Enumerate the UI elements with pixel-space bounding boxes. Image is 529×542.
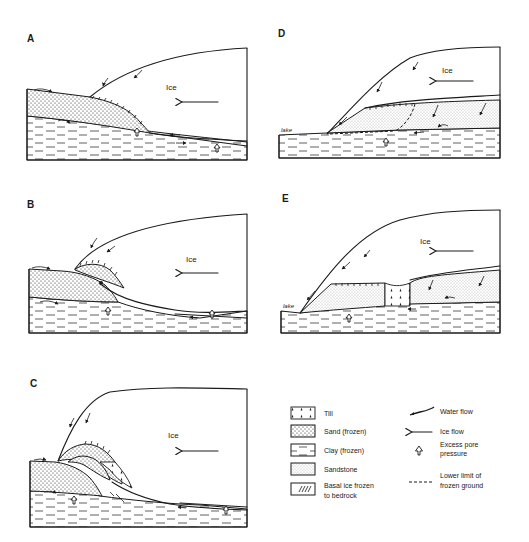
sand-swatch <box>291 425 315 437</box>
water-flow-arrow <box>70 418 74 427</box>
legend-item-excess-pore-pressure: Excess pore pressure <box>416 441 479 458</box>
water-flow-arrow <box>34 459 46 460</box>
legend-label: Ice flow <box>440 428 465 435</box>
panel-label-b: B <box>27 199 34 210</box>
sandstone-swatch <box>291 463 315 475</box>
clay-layer <box>279 128 500 158</box>
lake-label: lake <box>281 127 293 133</box>
basal-ice-swatch <box>291 483 315 495</box>
legend-item-till: Till <box>291 407 333 419</box>
panel-d: D lake Ice <box>278 28 500 158</box>
excess-pore-pressure-icon <box>416 446 423 455</box>
sandstone-layer-right <box>410 270 500 304</box>
till-swatch <box>291 407 315 419</box>
ice-label: Ice <box>186 255 197 264</box>
thrust-point <box>99 281 103 285</box>
legend-label: Lower limit of <box>440 472 481 479</box>
legend-label: frozen ground <box>440 482 483 490</box>
legend-label: Basal ice frozen <box>324 482 374 489</box>
panel-label-d: D <box>278 28 285 39</box>
panel-label-c: C <box>30 378 37 389</box>
ice-surface <box>75 214 247 269</box>
legend-item-clay: Clay (frozen) <box>291 444 364 456</box>
legend-label: Till <box>324 410 333 417</box>
glacial-deformation-diagram: A Ice D lake Ice <box>0 0 529 542</box>
panel-e: E lake Ice <box>281 193 500 333</box>
legend: Till Sand (frozen) Clay (frozen) Sandsto… <box>291 407 483 499</box>
legend-label: Clay (frozen) <box>324 447 364 455</box>
water-flow-arrow <box>134 70 142 78</box>
water-flow-arrow <box>364 250 370 257</box>
panel-label-e: E <box>282 193 289 204</box>
lake-label: lake <box>283 303 295 309</box>
legend-item-sandstone: Sandstone <box>291 463 358 475</box>
water-flow-arrow <box>32 267 50 269</box>
legend-label: Sand (frozen) <box>324 428 366 436</box>
legend-item-basal-ice: Basal ice frozen to bedrock <box>291 482 374 499</box>
water-flow-arrow <box>413 62 418 70</box>
water-flow-arrow <box>377 82 382 92</box>
legend-item-lower-limit-frozen-ground: Lower limit of frozen ground <box>409 472 483 490</box>
water-flow-arrow <box>91 238 97 248</box>
water-flow-arrow <box>107 246 115 252</box>
ice-label: Ice <box>420 237 431 246</box>
till-plug <box>385 283 410 306</box>
panel-b: B Ice <box>27 199 247 333</box>
sandstone-layer <box>327 100 500 133</box>
legend-label: Excess pore <box>440 441 479 449</box>
panel-c: C Ice <box>30 378 247 527</box>
legend-label: Water flow <box>440 408 474 415</box>
legend-item-ice-flow: Ice flow <box>412 428 465 435</box>
legend-label: Sandstone <box>324 466 358 473</box>
ice-label: Ice <box>168 431 179 440</box>
water-flow-arrow <box>307 291 315 300</box>
ice-label: Ice <box>166 83 177 92</box>
panel-label-a: A <box>27 33 34 44</box>
clay-swatch <box>291 444 315 456</box>
ice-label: Ice <box>442 66 453 75</box>
legend-label: to bedrock <box>324 492 357 499</box>
water-flow-arrow <box>342 262 350 269</box>
legend-item-sand: Sand (frozen) <box>291 425 366 437</box>
panel-a: A Ice <box>27 33 247 160</box>
water-flow-arrow <box>86 413 90 423</box>
legend-item-water-flow: Water flow <box>410 407 474 415</box>
legend-label: pressure <box>440 450 467 458</box>
